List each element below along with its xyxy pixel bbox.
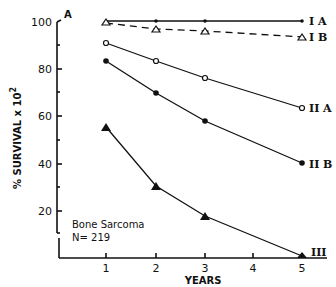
y-tick-80: 80 <box>38 63 52 76</box>
x-tick-3: 3 <box>202 262 209 275</box>
y-axis <box>57 20 62 258</box>
y-axis-title: % SURVIVAL x 102 <box>9 87 23 189</box>
series-IIB <box>103 58 305 166</box>
series-IA <box>106 19 304 23</box>
series-IIA <box>104 41 305 111</box>
label-IB: I B <box>309 31 327 44</box>
x-tick-5: 5 <box>299 262 306 275</box>
panel-label: A <box>64 9 72 20</box>
x-axis <box>59 253 327 258</box>
x-tick-4: 4 <box>250 262 257 275</box>
y-tick-60: 60 <box>38 110 52 123</box>
series-III <box>101 123 307 258</box>
label-III: III <box>311 246 326 259</box>
label-IIA: II A <box>309 102 332 115</box>
label-IA: I A <box>309 15 327 28</box>
y-tick-100: 100 <box>31 16 52 29</box>
x-tick-1: 1 <box>103 262 110 275</box>
survival-chart: 100 80 60 40 20 1 2 3 4 5 YEARS % SURVIV… <box>0 0 336 287</box>
x-tick-2: 2 <box>153 262 160 275</box>
y-tick-20: 20 <box>38 205 52 218</box>
annotation-n: N= 219 <box>72 232 110 243</box>
label-IIB: II B <box>309 158 332 171</box>
annotation-disease: Bone Sarcoma <box>72 219 145 230</box>
y-tick-40: 40 <box>38 158 52 171</box>
x-axis-title: YEARS <box>184 275 222 286</box>
